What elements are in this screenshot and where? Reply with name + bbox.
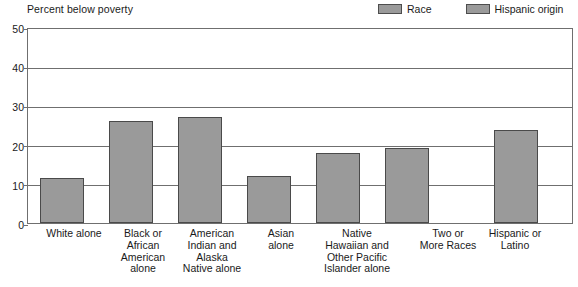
legend-swatch-race — [378, 4, 402, 14]
bar — [109, 121, 153, 223]
y-axis-tickmark-30 — [24, 107, 28, 108]
bar — [247, 176, 291, 223]
y-axis-tickmark-40 — [24, 68, 28, 69]
bar — [494, 130, 538, 223]
y-axis-tick-20: 20 — [12, 141, 24, 153]
y-axis-tick-10: 10 — [12, 180, 24, 192]
legend-label-race: Race — [407, 3, 432, 15]
legend-swatch-hispanic-origin — [466, 4, 490, 14]
y-axis-tick-30: 30 — [12, 101, 24, 113]
legend-item-race: Race — [378, 3, 432, 15]
gridline-30 — [28, 107, 572, 108]
bar — [316, 153, 360, 223]
bar — [40, 178, 84, 223]
chart-legend: Race Hispanic origin — [378, 3, 563, 15]
y-axis-tick-50: 50 — [12, 23, 24, 35]
plot-area: 01020304050 — [27, 28, 573, 224]
x-axis-label: Hispanic or Latino — [454, 228, 576, 252]
y-axis-tickmark-10 — [24, 185, 28, 186]
gridline-40 — [28, 68, 572, 69]
y-axis-tickmark-50 — [24, 29, 28, 30]
y-axis-tickmark-20 — [24, 146, 28, 147]
legend-item-hispanic-origin: Hispanic origin — [466, 3, 564, 15]
y-axis-tick-40: 40 — [12, 62, 24, 74]
bar — [385, 148, 429, 223]
y-axis-tickmark-0 — [24, 225, 28, 226]
x-axis-label: Native Hawaiian and Other Pacific Island… — [297, 228, 417, 275]
chart-axis-title: Percent below poverty — [27, 3, 133, 15]
bar — [178, 117, 222, 223]
legend-label-hispanic-origin: Hispanic origin — [495, 3, 564, 15]
poverty-bar-chart: Percent below poverty Race Hispanic orig… — [0, 0, 578, 287]
